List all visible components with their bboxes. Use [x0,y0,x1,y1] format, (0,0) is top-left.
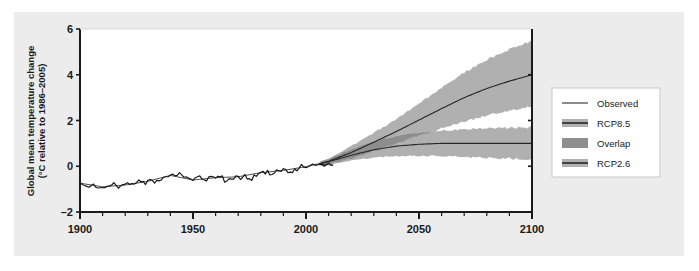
legend-swatch-overlap-block [562,138,588,148]
x-axis-tick-label: 2050 [407,223,431,235]
x-axis-tick-label: 1950 [181,223,205,235]
figure-container: –2024619001950200020502100Global mean te… [0,0,699,271]
legend-item-label: RCP2.6 [597,158,630,169]
legend-item[interactable]: RCP2.6 [562,158,630,169]
y-axis-tick-label: 0 [67,160,73,172]
legend-item[interactable]: Overlap [562,138,630,149]
y-axis-tick-label: 6 [67,23,73,35]
legend-item-label: Overlap [597,138,630,149]
y-axis-tick-label: 2 [67,115,73,127]
legend-item[interactable]: RCP8.5 [562,118,630,129]
y-axis-tick-label: –2 [61,206,73,218]
legend-item-label: RCP8.5 [597,118,630,129]
x-axis-tick-label: 2000 [294,223,318,235]
y-axis-title: Global mean temperature change(°C relati… [25,46,47,196]
x-axis-tick-label: 2100 [520,223,544,235]
y-axis-title-line1: Global mean temperature change [25,46,36,196]
legend-item-label: Observed [597,98,638,109]
chart-legend: ObservedRCP8.5OverlapRCP2.6 [552,88,660,177]
y-axis-tick-label: 4 [67,69,74,81]
x-axis-tick-label: 1900 [68,223,92,235]
y-axis-title-line2: (°C relative to 1986–2005) [36,64,47,179]
temperature-projection-chart: –2024619001950200020502100Global mean te… [0,0,699,271]
